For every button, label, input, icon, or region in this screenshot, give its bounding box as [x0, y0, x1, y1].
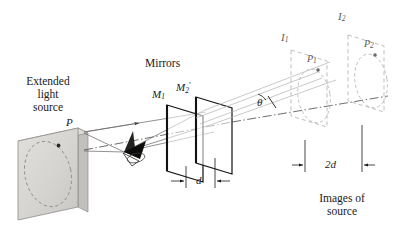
images-of-source-caption: Images of source: [294, 192, 390, 218]
image-point-p2-label-sub: 2: [370, 41, 374, 50]
images-of-source-caption-line1: Images of: [294, 192, 390, 205]
image-point-p1-label-sub: 1: [313, 56, 317, 65]
mirrors-heading-label: Mirrors: [145, 57, 180, 70]
source-point-label: P: [66, 116, 73, 128]
extended-light-source-label-line1: Extended: [6, 75, 90, 88]
image-gap-label: 2d: [325, 158, 336, 170]
image1-aperture-outline: [294, 67, 334, 125]
mirror-m2-prime-label: M2′: [176, 80, 191, 95]
image-plane-i1-label: I1: [281, 31, 288, 45]
mirror-m2-label-prime: ′: [189, 80, 191, 90]
mirror-m2-label-base: M: [176, 81, 185, 93]
images-of-source-caption-line2: source: [294, 205, 390, 218]
image-i2-label-sub: 2: [342, 14, 346, 23]
extended-light-source-label-line2: light: [6, 88, 90, 101]
extended-light-source-plate: [18, 128, 88, 220]
source-point-marker: [57, 144, 61, 148]
extended-light-source-label-line3: source: [6, 101, 90, 114]
angle-theta-label: θ: [257, 96, 262, 108]
observer-eye-icon: [123, 131, 146, 166]
image-point-p2-marker: [373, 53, 377, 57]
image-point-p1-marker: [316, 68, 320, 72]
image-i1-label-sub: 1: [285, 35, 289, 44]
image-point-p1-label: P1: [307, 53, 317, 66]
mirror-m1-label-sub: 1: [161, 92, 165, 101]
image-plane-i2-label: I2: [338, 10, 345, 24]
mirror-m1-label-base: M: [152, 88, 161, 100]
extended-light-source-label: Extended light source: [6, 75, 90, 114]
mirror-gap-label: d: [196, 174, 202, 186]
image-point-p2-label: P2: [364, 38, 374, 51]
mirror-m2-prime: [196, 97, 232, 174]
mirror-m1-label: M1: [152, 88, 165, 102]
